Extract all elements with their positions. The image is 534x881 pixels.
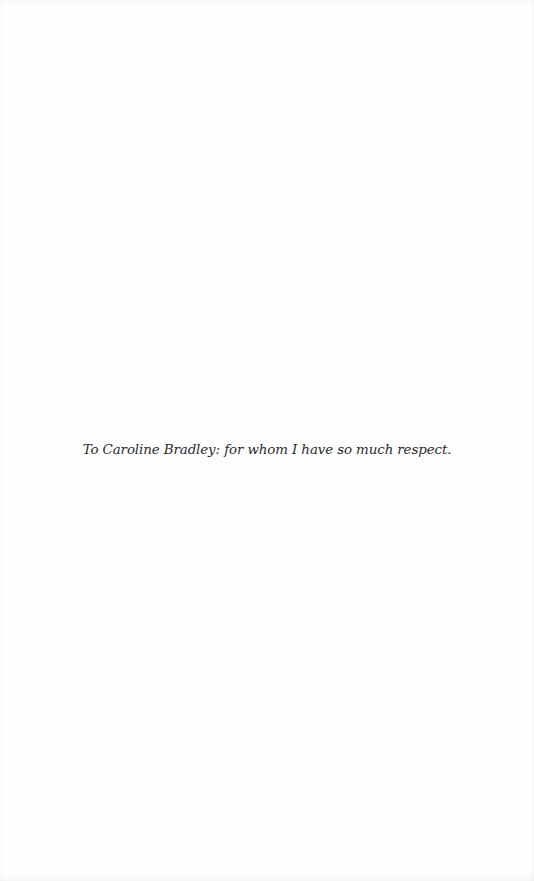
page-edge-bottom — [0, 873, 534, 881]
dedication-text: To Caroline Bradley: for whom I have so … — [0, 441, 534, 459]
book-page: To Caroline Bradley: for whom I have so … — [0, 0, 534, 881]
page-edge-top — [0, 0, 534, 6]
